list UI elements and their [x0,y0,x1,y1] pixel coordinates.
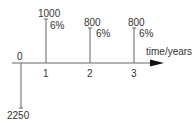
amount-label-0: 2250 [7,110,30,121]
amount-label-1: 1000 [38,8,61,19]
axis-label: time/years [146,46,192,57]
time-label-0: 0 [17,51,23,62]
rate-label-2: 6% [96,28,111,39]
cash-flow-diagram: 0 1 2 3 2250 1000 800 800 6% 6% 6% time/… [0,0,195,123]
amount-label-3: 800 [128,17,145,28]
rate-label-1: 6% [50,20,65,31]
time-label-3: 3 [131,68,137,79]
time-label-2: 2 [87,68,93,79]
time-label-1: 1 [43,68,49,79]
amount-label-2: 800 [84,17,101,28]
axis-arrowhead-icon [150,60,164,67]
rate-label-3: 6% [139,28,154,39]
